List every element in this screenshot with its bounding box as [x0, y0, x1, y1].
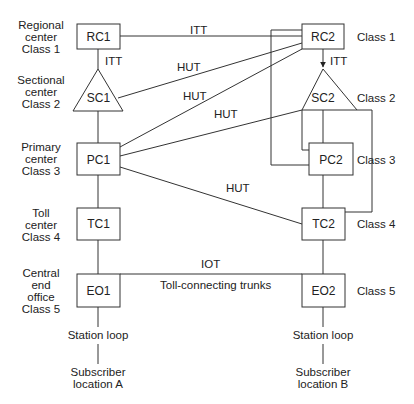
- node-rc1-label: RC1: [77, 31, 120, 43]
- trunk-label-hut-sc1-rc2: HUT: [177, 61, 201, 73]
- subscriber-location-b: Subscriber location B: [283, 366, 363, 390]
- trunk-label-itt-rc1-sc1: ITT: [105, 55, 122, 67]
- trunk-label-toll-connecting: Toll-connecting trunks: [160, 279, 271, 291]
- edge-pc1-rc2: [120, 49, 302, 147]
- node-sc2-label: SC2: [302, 92, 344, 104]
- edge-sc1-rc2: [118, 43, 302, 98]
- edge-sc2-pc2-left: [302, 110, 309, 150]
- node-eo2-label: EO2: [302, 285, 345, 297]
- edge-pc1-tc2: [120, 167, 302, 224]
- right-label-class-2: Class 2: [357, 92, 395, 104]
- right-label-class-5: Class 5: [357, 285, 395, 297]
- node-tc1-label: TC1: [77, 218, 120, 230]
- left-label-central-office: Central end office Class 5: [1, 267, 81, 315]
- left-label-sectional: Sectional center Class 2: [1, 74, 81, 110]
- left-label-regional: Regional center Class 1: [1, 19, 81, 55]
- trunk-label-iot: IOT: [201, 258, 220, 270]
- right-label-class-1: Class 1: [357, 31, 395, 43]
- station-loop-a-label: Station loop: [58, 329, 138, 341]
- node-sc1-label: SC1: [77, 92, 120, 104]
- right-label-class-3: Class 3: [357, 154, 395, 166]
- trunk-label-itt-rc1-rc2: ITT: [190, 24, 207, 36]
- node-rc2-label: RC2: [302, 31, 344, 43]
- network-hierarchy-diagram: [0, 0, 414, 404]
- edge-pc1-sc2: [120, 110, 302, 156]
- node-tc2-label: TC2: [302, 218, 345, 230]
- station-loop-b-label: Station loop: [283, 329, 363, 341]
- node-pc2-label: PC2: [309, 154, 353, 166]
- node-eo1-label: EO1: [77, 285, 120, 297]
- trunk-label-hut-pc1-tc2: HUT: [226, 182, 250, 194]
- trunk-label-hut-pc1-rc2: HUT: [183, 90, 207, 102]
- trunk-label-hut-pc1-sc2: HUT: [214, 108, 238, 120]
- left-label-toll: Toll center Class 4: [1, 207, 81, 243]
- subscriber-location-a: Subscriber location A: [58, 366, 138, 390]
- right-label-class-4: Class 4: [357, 218, 395, 230]
- node-pc1-label: PC1: [77, 154, 120, 166]
- trunk-label-itt-rc2-sc2: ITT: [330, 55, 347, 67]
- left-label-primary: Primary center Class 3: [1, 141, 81, 177]
